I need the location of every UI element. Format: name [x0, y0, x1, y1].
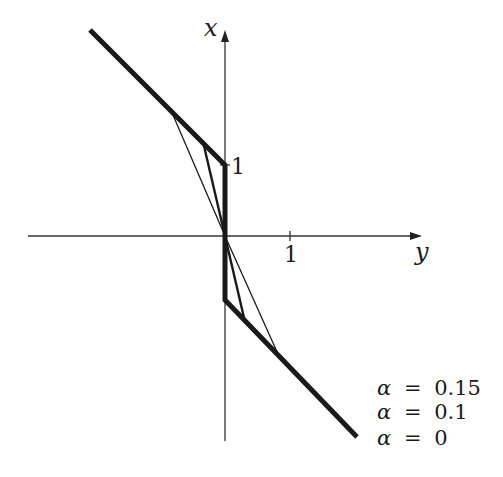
diagram-figure: x y 1 1 α = 0.15 α = 0.1 α = 0 [0, 0, 503, 477]
legend-item-alpha-0: α = 0 [377, 426, 448, 450]
vertical-axis-label: x [204, 14, 218, 42]
legend-item-alpha-0.1: α = 0.1 [377, 400, 468, 424]
legend-item-alpha-0.15: α = 0.15 [377, 376, 481, 400]
vertical-axis-arrow-icon [221, 30, 229, 42]
legend: α = 0.15 α = 0.1 α = 0 [377, 376, 481, 450]
vertical-tick-label: 1 [231, 154, 245, 179]
horizontal-tick-label: 1 [284, 242, 298, 267]
horizontal-axis-label: y [414, 238, 429, 266]
